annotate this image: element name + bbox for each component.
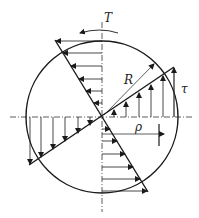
torsion-diagram: T R τ ρ [0, 0, 199, 218]
upper-stress-arrows [56, 41, 102, 103]
lower-stress-arrows [102, 129, 147, 191]
shear-stress-label: τ [181, 82, 188, 96]
radius-label: R [123, 73, 133, 87]
horizontal-stress-profile-line [29, 67, 174, 165]
radius-line [104, 64, 154, 115]
torque-arrow-icon [80, 30, 118, 33]
rho-label: ρ [134, 120, 142, 134]
left-stress-arrows [30, 117, 90, 164]
torque-label: T [104, 11, 113, 25]
